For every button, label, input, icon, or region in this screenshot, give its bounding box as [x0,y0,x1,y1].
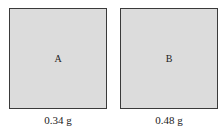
sample-label-b: B [166,53,173,64]
sample-box-a: A [9,8,107,109]
sample-box-b: B [120,8,218,109]
mass-label-a: 0.34 g [9,114,107,126]
sample-label-a: A [54,53,61,64]
mass-label-b: 0.48 g [120,114,218,126]
